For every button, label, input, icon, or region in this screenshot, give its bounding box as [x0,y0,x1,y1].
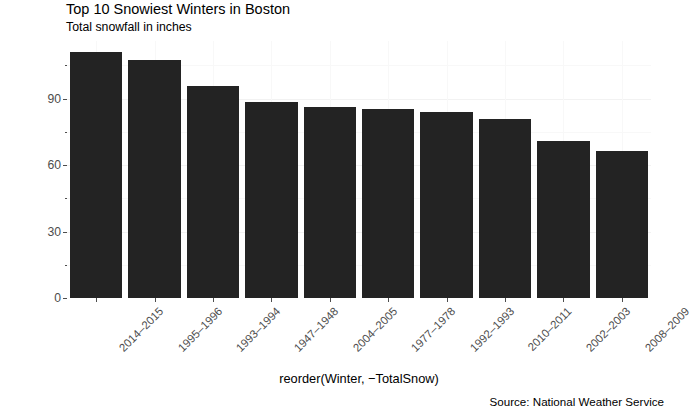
x-axis-tick-label: 1992–1993 [467,305,516,354]
x-axis-tick-label: 2008–2009 [642,305,691,354]
y-axis-tick-mark [63,165,67,166]
bar[interactable] [187,86,240,298]
x-axis-tick-label: 2002–2003 [584,305,633,354]
x-axis-tick-mark [622,298,623,302]
x-axis-tick-label: 2014–2015 [117,305,166,354]
x-axis-tick-mark [447,298,448,302]
y-axis-minor-tick-mark [65,132,68,133]
plot-panel [67,41,651,298]
x-axis-tick-label: 1977–1978 [409,305,458,354]
x-axis-tick-mark [155,298,156,302]
y-axis-minor-tick-mark [65,198,68,199]
x-axis-tick-mark [505,298,506,302]
y-axis-tick-mark [63,232,67,233]
chart-subtitle: Total snowfall in inches [66,20,192,35]
bar[interactable] [596,151,649,298]
y-axis-minor-tick-mark [65,65,68,66]
x-axis-tick-label: 1993–1994 [234,305,283,354]
x-axis-tick-mark [563,298,564,302]
y-axis-tick-label: 60 [1,158,61,172]
bar[interactable] [128,60,181,298]
y-axis-minor-tick-mark [65,265,68,266]
x-axis-title: reorder(Winter, −TotalSnow) [67,371,651,386]
y-axis-tick-label: 30 [1,225,61,239]
bar[interactable] [479,119,532,298]
y-axis-tick-mark [63,298,67,299]
bar[interactable] [245,102,298,298]
bar[interactable] [537,141,590,298]
x-axis-tick-mark [213,298,214,302]
x-axis-tick-mark [330,298,331,302]
bar[interactable] [304,107,357,298]
y-axis-tick-mark [63,99,67,100]
chart-title: Top 10 Snowiest Winters in Boston [66,1,290,18]
y-axis-tick-label: 0 [1,291,61,305]
x-axis-tick-label: 2004–2005 [350,305,399,354]
x-axis-tick-label: 2010–2011 [525,305,573,353]
bar[interactable] [362,109,415,298]
x-axis-tick-label: 1947–1948 [292,305,341,354]
x-axis-tick-mark [271,298,272,302]
bar[interactable] [420,112,473,298]
x-axis-tick-label: 1995–1996 [175,305,224,354]
x-axis-tick-mark [96,298,97,302]
chart-caption: Source: National Weather Service [490,395,664,408]
y-axis-tick-label: 90 [1,92,61,106]
bar[interactable] [70,52,123,298]
x-axis-tick-mark [388,298,389,302]
